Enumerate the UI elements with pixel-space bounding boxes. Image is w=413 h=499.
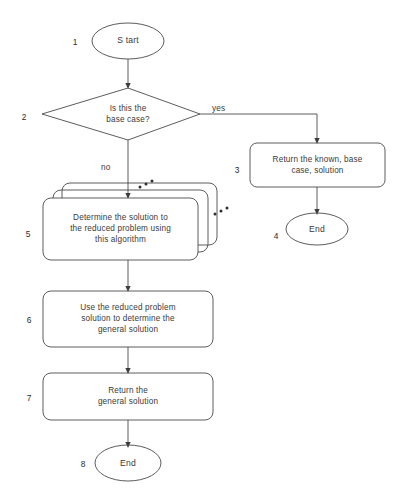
connector-yes-to-return-base [200, 114, 317, 141]
node-shape-return-base [250, 143, 385, 187]
step-number-1: 1 [68, 37, 82, 47]
node-shape-decision [42, 88, 200, 140]
step-number-4: 4 [269, 231, 283, 241]
node-shape-end-general [95, 445, 161, 481]
node-shape-recurse-front [43, 198, 198, 260]
edge-label-yes: yes [212, 104, 225, 114]
flowchart-graphics [0, 0, 413, 499]
recursion-dots-right [214, 207, 229, 216]
flowchart-canvas: S tart Is this the base case? Return the… [0, 0, 413, 499]
step-number-7: 7 [22, 393, 36, 403]
recursion-dots-top [139, 180, 154, 189]
step-number-3: 3 [230, 165, 244, 175]
node-shape-combine [43, 291, 213, 347]
step-number-2: 2 [17, 112, 31, 122]
node-shape-end-base [286, 213, 348, 245]
step-number-8: 8 [76, 459, 90, 469]
edge-label-no: no [101, 163, 110, 173]
step-number-5: 5 [21, 229, 35, 239]
node-shape-start [92, 23, 164, 59]
step-number-6: 6 [22, 315, 36, 325]
node-shape-return-general [43, 373, 213, 420]
